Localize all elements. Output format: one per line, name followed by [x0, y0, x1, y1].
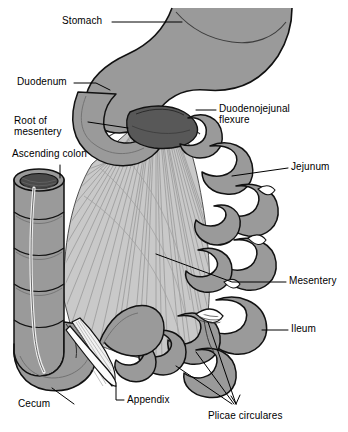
label-root-of-mesentery-line1: Root of — [14, 115, 47, 127]
label-plicae-circulares: Plicae circulares — [208, 410, 283, 422]
label-appendix: Appendix — [127, 394, 170, 406]
label-duodenum: Duodenum — [17, 76, 67, 88]
anatomy-illustration — [0, 0, 348, 432]
anatomy-figure: Stomach Duodenum Root of mesentery Ascen… — [0, 0, 348, 432]
label-stomach: Stomach — [62, 15, 102, 27]
ascending-colon-organ — [14, 169, 64, 376]
label-jejunum: Jejunum — [291, 161, 330, 173]
label-ascending-colon: Ascending colon — [12, 148, 87, 160]
label-duodenojejunal-flexure-line2: flexure — [219, 114, 250, 126]
colon-body — [14, 180, 64, 376]
label-mesentery: Mesentery — [289, 275, 337, 287]
label-root-of-mesentery-line2: mesentery — [14, 126, 62, 138]
label-duodenojejunal-flexure-line1: Duodenojejunal — [219, 103, 290, 115]
label-ileum: Ileum — [291, 323, 316, 335]
label-cecum: Cecum — [18, 398, 50, 410]
